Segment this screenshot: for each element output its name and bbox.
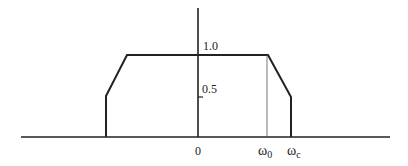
label-origin: 0	[195, 144, 201, 158]
label-omegac-base: ω	[287, 143, 296, 158]
label-omegac-sub: c	[296, 149, 301, 160]
label-omega0-sub: 0	[267, 149, 272, 160]
label-omegac: ωc	[287, 143, 301, 160]
label-omega0-base: ω	[258, 143, 267, 158]
label-1-0: 1.0	[203, 39, 218, 53]
label-omega0: ω0	[258, 143, 272, 160]
label-0-5: 0.5	[202, 82, 217, 96]
filter-response-diagram: 1.0 0.5 0 ω0 ωc	[0, 0, 408, 166]
